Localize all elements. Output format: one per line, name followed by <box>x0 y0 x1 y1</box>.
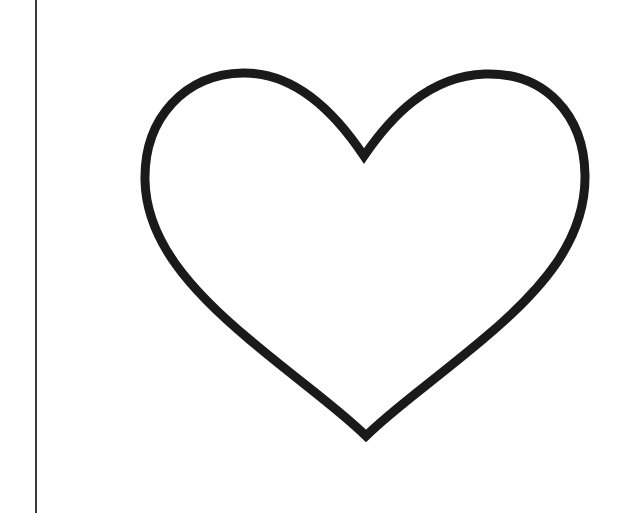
heart-icon <box>0 0 634 513</box>
heart-figure <box>0 0 634 513</box>
